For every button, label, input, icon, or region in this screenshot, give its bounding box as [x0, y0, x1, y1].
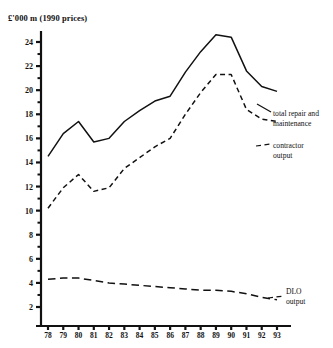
- y-tick-label: 10: [25, 207, 33, 216]
- y-tick-label: 18: [25, 110, 33, 119]
- x-tick-label: 88: [197, 331, 205, 340]
- annotation-dlo-output-line1: DLO: [286, 287, 305, 297]
- y-tick-label: 22: [25, 62, 33, 71]
- x-tick-label: 81: [90, 331, 98, 340]
- x-tick-label: 79: [60, 331, 68, 340]
- chart-annotation-leaders: [256, 104, 284, 298]
- y-axis-ticks: 24222018161412108642: [25, 38, 41, 312]
- x-tick-label: 87: [182, 331, 190, 340]
- annotation-total-repair-line1: total repair and: [273, 109, 319, 119]
- y-tick-label: 4: [29, 279, 33, 288]
- x-tick-label: 78: [44, 331, 52, 340]
- chart-plot-area: 24222018161412108642 7879808182838485868…: [0, 0, 333, 348]
- y-tick-label: 12: [25, 183, 33, 192]
- x-axis-ticks: 78798081828384858687888990919293: [44, 326, 281, 340]
- y-tick-label: 14: [25, 158, 33, 167]
- y-tick-label: 16: [25, 134, 33, 143]
- x-tick-label: 91: [243, 331, 251, 340]
- y-tick-label: 8: [29, 231, 33, 240]
- series-line-dlo-output: [48, 278, 277, 300]
- x-tick-label: 83: [121, 331, 129, 340]
- x-tick-label: 85: [151, 331, 159, 340]
- series-line-contractor-output: [48, 75, 277, 209]
- series-line-total-repair-and-maintenance: [48, 35, 277, 157]
- leader-line-total: [257, 104, 271, 112]
- x-tick-label: 90: [227, 331, 235, 340]
- x-tick-label: 93: [273, 331, 281, 340]
- annotation-dlo-output: DLO output: [286, 287, 305, 306]
- y-tick-label: 20: [25, 86, 33, 95]
- annotation-contractor-output-line2: output: [273, 151, 304, 161]
- y-tick-label: 2: [29, 303, 33, 312]
- x-tick-label: 84: [136, 331, 144, 340]
- x-tick-label: 89: [212, 331, 220, 340]
- x-tick-label: 82: [105, 331, 113, 340]
- chart-container: £'000 m (1990 prices) 242220181614121086…: [0, 0, 333, 348]
- annotation-dlo-output-line2: output: [286, 297, 305, 307]
- annotation-total-repair-line2: maintenance: [273, 119, 319, 129]
- annotation-total-repair: total repair and maintenance: [273, 109, 319, 128]
- y-tick-label: 24: [25, 38, 33, 47]
- leader-line-contractor: [256, 144, 271, 146]
- chart-series-lines: [48, 35, 277, 300]
- annotation-contractor-output: contractor output: [273, 141, 304, 160]
- y-tick-label: 6: [29, 255, 33, 264]
- chart-axes: [36, 31, 291, 326]
- annotation-contractor-output-line1: contractor: [273, 141, 304, 151]
- x-tick-label: 80: [75, 331, 83, 340]
- x-tick-label: 92: [258, 331, 266, 340]
- x-tick-label: 86: [166, 331, 174, 340]
- leader-line-dlo: [268, 296, 284, 298]
